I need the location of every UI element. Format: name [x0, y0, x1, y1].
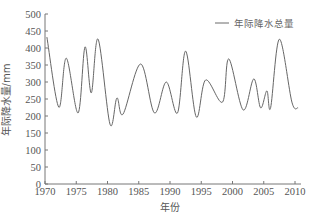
x-tick-label: 2000: [222, 186, 243, 197]
y-tick-label: 100: [25, 145, 41, 156]
x-axis-title: 年份: [160, 201, 180, 213]
y-tick-label: 500: [25, 9, 41, 20]
series-line-annual-precipitation: [47, 37, 298, 126]
y-axis-title: 年际降水量/mm: [0, 64, 12, 137]
y-tick-label: 50: [31, 162, 42, 173]
y-tick-label: 300: [25, 77, 41, 88]
legend: 年际降水总量: [215, 18, 294, 29]
x-tick-label: 1970: [35, 186, 56, 197]
x-axis: 197019751980198519901995200020052010: [35, 181, 306, 197]
x-tick-label: 2010: [285, 186, 306, 197]
y-tick-label: 250: [25, 94, 41, 105]
precipitation-line-chart: 050100150200250300350400450500 197019751…: [0, 0, 314, 218]
x-tick-label: 1990: [160, 186, 181, 197]
y-tick-label: 150: [25, 128, 41, 139]
y-tick-label: 400: [25, 43, 41, 54]
y-tick-label: 450: [25, 26, 41, 37]
y-axis: 050100150200250300350400450500: [25, 9, 48, 190]
y-tick-label: 350: [25, 60, 41, 71]
x-tick-label: 1980: [97, 186, 118, 197]
x-tick-label: 1995: [191, 186, 212, 197]
x-tick-label: 2005: [253, 186, 274, 197]
legend-label: 年际降水总量: [234, 18, 294, 29]
x-tick-label: 1985: [128, 186, 149, 197]
x-tick-label: 1975: [66, 186, 87, 197]
y-tick-label: 200: [25, 111, 41, 122]
